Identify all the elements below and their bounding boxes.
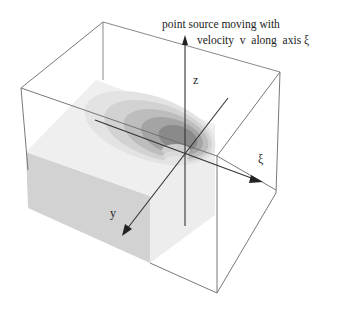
point-source-3d-diagram [0,0,355,311]
box-back-edges [103,22,280,80]
z-arrowhead-icon [182,35,188,45]
y-axis-label: y [110,207,116,219]
z-axis-label: z [193,74,198,86]
xi-axis-label: ξ [258,153,263,165]
xi-arrowhead-icon [249,175,263,183]
caption-line-2: velocity v along axis ξ [197,35,309,47]
caption-line-1: point source moving with [162,19,280,31]
